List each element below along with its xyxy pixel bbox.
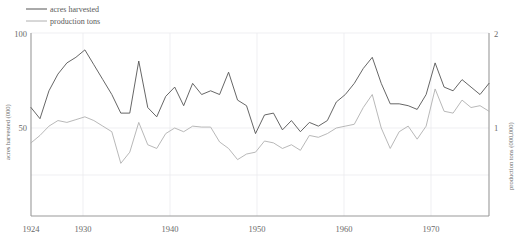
- chart-container: 100 50 2 1 acres harvested (000) product…: [0, 0, 520, 245]
- series-group: [31, 50, 489, 163]
- y-axis-right-tick-2: 2: [494, 29, 498, 39]
- line-chart: 100 50 2 1 acres harvested (000) product…: [0, 0, 520, 245]
- y-axis-left-tick-100: 100: [14, 29, 27, 39]
- x-axis-tick-1950: 1950: [249, 224, 266, 234]
- legend: acres harvested production tons: [26, 5, 100, 26]
- y-axis-right-title: production tons (000,000): [507, 122, 515, 190]
- series-line-acres-harvested: [31, 50, 489, 134]
- x-axis-tick-1924: 1924: [23, 224, 41, 234]
- legend-label-production-tons: production tons: [50, 17, 100, 26]
- y-axis-left-tick-50: 50: [19, 123, 28, 133]
- x-axis-tick-1970: 1970: [423, 224, 440, 234]
- y-axis-right-tick-1: 1: [494, 123, 498, 133]
- x-axis-tick-1960: 1960: [336, 224, 353, 234]
- x-axis-tick-1930: 1930: [75, 224, 92, 234]
- series-line-production-tons: [31, 89, 489, 163]
- x-axis-ticks: 1924 1930 1940 1950 1960 1970: [23, 224, 440, 234]
- x-axis-tick-1940: 1940: [162, 224, 179, 234]
- legend-label-acres-harvested: acres harvested: [50, 5, 99, 14]
- y-axis-left-title: acres harvested (000): [4, 104, 12, 160]
